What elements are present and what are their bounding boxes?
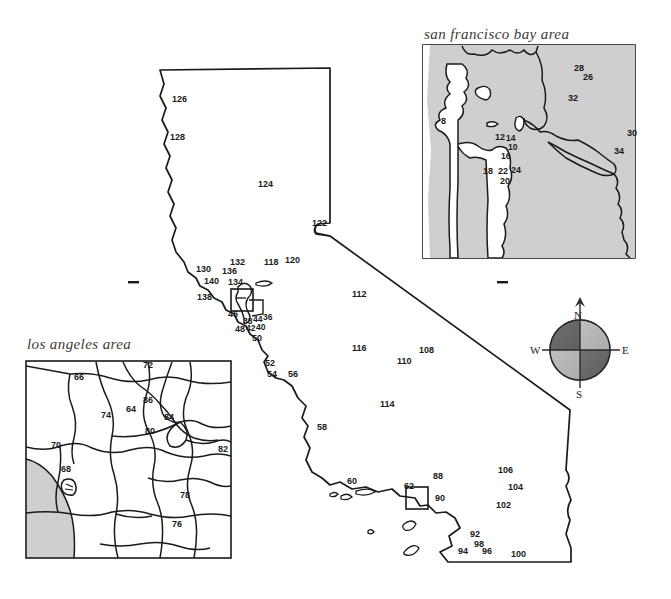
label: 82	[218, 444, 228, 454]
label: 118	[264, 257, 279, 267]
label: 80	[145, 426, 155, 436]
map-figure: san francisco bay area los angeles area	[0, 0, 671, 599]
compass-west-label: W	[530, 344, 541, 356]
label: 32	[568, 93, 578, 103]
label: 20	[500, 176, 510, 186]
label: 62	[404, 481, 414, 491]
label: 124	[258, 179, 273, 189]
label: 56	[288, 369, 298, 379]
label: 100	[511, 549, 526, 559]
label: 42	[246, 323, 256, 333]
label: 88	[433, 471, 443, 481]
compass-east-label: E	[622, 344, 629, 356]
label: 50	[252, 333, 262, 343]
label: 104	[508, 482, 523, 492]
label: 8	[441, 116, 446, 126]
label: 112	[352, 289, 367, 299]
label: 18	[483, 166, 493, 176]
label: 12	[495, 132, 505, 142]
label: 110	[397, 356, 412, 366]
label: 58	[317, 422, 327, 432]
compass-south-label: S	[576, 388, 582, 400]
label: 136	[222, 266, 237, 276]
label: 40	[256, 322, 266, 332]
label: 70	[51, 440, 61, 450]
label: 16	[501, 151, 511, 161]
label: 96	[482, 546, 492, 556]
label: 24	[511, 165, 521, 175]
label: 126	[172, 94, 187, 104]
label: 128	[170, 132, 185, 142]
label: 34	[614, 146, 624, 156]
label: 84	[164, 412, 174, 422]
label: 54	[267, 369, 277, 379]
map-canvas: 126 128 124 122 132 118 120 130 136 140 …	[0, 0, 671, 599]
label: 140	[204, 276, 219, 286]
label: 92	[470, 529, 480, 539]
sf-inset-title: san francisco bay area	[424, 26, 569, 43]
label: 46	[228, 309, 238, 319]
label: 134	[228, 277, 243, 287]
label: 90	[435, 493, 445, 503]
label: 22	[498, 166, 508, 176]
label: 68	[61, 464, 71, 474]
label: 130	[196, 264, 211, 274]
label: 60	[347, 476, 357, 486]
label: 94	[458, 546, 468, 556]
la-inset: 72 66 86 64 74 84 80 70 82 68 78 76	[26, 360, 231, 558]
label: 114	[380, 399, 395, 409]
label: 76	[172, 519, 182, 529]
label: 106	[498, 465, 513, 475]
label: 102	[496, 500, 511, 510]
label: 86	[143, 395, 153, 405]
label: 30	[627, 128, 637, 138]
label: 74	[101, 410, 111, 420]
compass-rose: N S E W	[530, 297, 629, 400]
label: 78	[180, 490, 190, 500]
label: 48	[235, 324, 245, 334]
label: 52	[265, 358, 275, 368]
sf-inset: 8 12 14 10 16 18 22 24 20 28 26 32 30 34	[423, 45, 637, 258]
label: 72	[143, 360, 153, 370]
label: 66	[74, 372, 84, 382]
la-inset-title: los angeles area	[27, 336, 131, 353]
label: 26	[583, 72, 593, 82]
label: 122	[312, 218, 327, 228]
label: 108	[419, 345, 434, 355]
label: 120	[285, 255, 300, 265]
label: 64	[126, 404, 136, 414]
label: 138	[197, 292, 212, 302]
label: 36	[263, 312, 273, 322]
compass-north-label: N	[574, 309, 582, 321]
label: 116	[352, 343, 367, 353]
